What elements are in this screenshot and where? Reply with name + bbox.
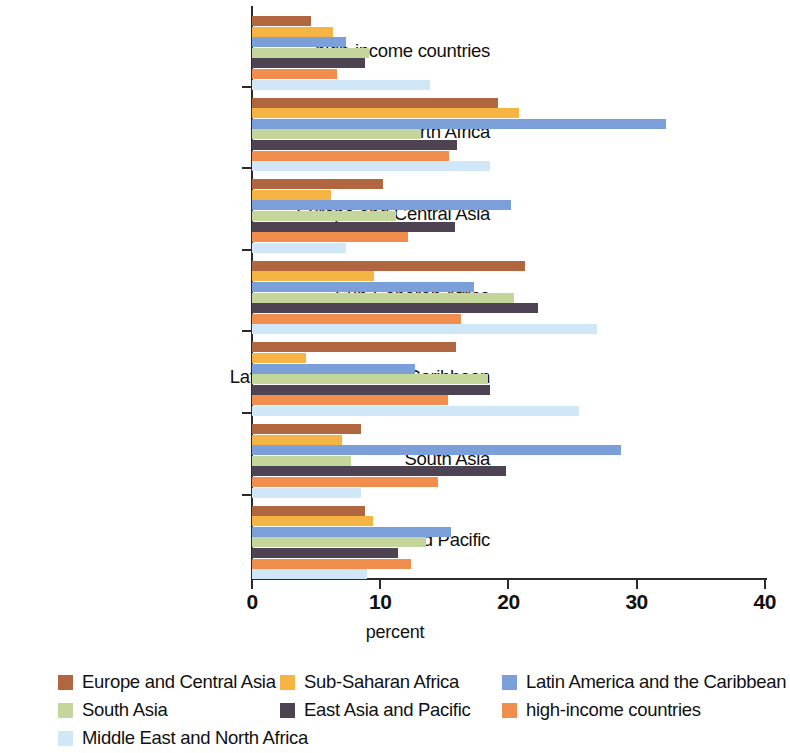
bar	[252, 314, 461, 324]
legend-label: Latin America and the Caribbean	[526, 671, 786, 693]
bar	[252, 424, 361, 434]
bar-group: Latin America and the Caribbean	[252, 338, 765, 420]
bar-group: Middle East and North Africa	[252, 94, 765, 176]
legend-item[interactable]: high-income countries	[502, 699, 778, 721]
bar	[252, 243, 346, 253]
x-axis-tick	[764, 580, 766, 589]
y-axis-tick	[242, 494, 251, 496]
bar	[252, 119, 666, 129]
bar	[252, 48, 369, 58]
bar	[252, 232, 408, 242]
bar	[252, 222, 455, 232]
bar	[252, 385, 490, 395]
x-axis-tick-label: 0	[246, 590, 257, 614]
bar	[252, 435, 342, 445]
bar	[252, 506, 365, 516]
x-axis-tick-label: 10	[369, 590, 391, 614]
bar	[252, 466, 506, 476]
legend-item[interactable]: Europe and Central Asia	[58, 671, 280, 693]
bar	[252, 303, 538, 313]
bar	[252, 151, 449, 161]
chart-legend: Europe and Central AsiaSub-Saharan Afric…	[58, 668, 778, 752]
bar	[252, 27, 333, 37]
legend-swatch-icon	[502, 675, 517, 690]
bar	[252, 282, 474, 292]
legend-swatch-icon	[280, 703, 295, 718]
bar	[252, 140, 457, 150]
legend-label: high-income countries	[526, 699, 701, 721]
bar	[252, 161, 490, 171]
bar	[252, 271, 374, 281]
y-axis-tick	[242, 330, 251, 332]
x-axis-tick	[507, 580, 509, 589]
bar	[252, 179, 383, 189]
bar-group: East Asia and Pacific	[252, 502, 765, 584]
bar	[252, 406, 579, 416]
y-axis-tick	[242, 86, 251, 88]
bar	[252, 37, 346, 47]
legend-swatch-icon	[280, 675, 295, 690]
legend-swatch-icon	[58, 675, 73, 690]
bar	[252, 293, 514, 303]
bar	[252, 69, 337, 79]
bar	[252, 569, 367, 579]
x-axis-tick	[636, 580, 638, 589]
legend-item[interactable]: East Asia and Pacific	[280, 699, 502, 721]
bar-group: Sub-Saharan Africa	[252, 257, 765, 339]
bar	[252, 324, 597, 334]
bar	[252, 98, 498, 108]
chart-root: high-income countriesMiddle East and Nor…	[0, 0, 790, 753]
bar	[252, 516, 373, 526]
bar	[252, 548, 398, 558]
legend-label: East Asia and Pacific	[304, 699, 470, 721]
bar	[252, 395, 448, 405]
legend-label: Sub-Saharan Africa	[304, 671, 459, 693]
x-axis-title: percent	[0, 622, 790, 643]
bar	[252, 261, 525, 271]
legend-label: Europe and Central Asia	[82, 671, 276, 693]
bar	[252, 559, 411, 569]
bar	[252, 200, 511, 210]
bar	[252, 211, 396, 221]
x-axis-tick	[251, 580, 253, 589]
bar-group: South Asia	[252, 420, 765, 502]
bar	[252, 488, 361, 498]
x-axis-tick	[379, 580, 381, 589]
bar	[252, 190, 331, 200]
bar	[252, 456, 351, 466]
x-axis-tick-label: 30	[625, 590, 647, 614]
bar	[252, 108, 519, 118]
legend-swatch-icon	[58, 731, 73, 746]
bar	[252, 537, 426, 547]
bar	[252, 477, 438, 487]
legend-label: Middle East and North Africa	[82, 727, 308, 749]
y-axis-tick	[242, 249, 251, 251]
legend-swatch-icon	[58, 703, 73, 718]
bar	[252, 16, 311, 26]
bar	[252, 364, 415, 374]
bar	[252, 342, 456, 352]
x-axis-tick-label: 20	[497, 590, 519, 614]
y-axis-tick	[242, 412, 251, 414]
legend-swatch-icon	[502, 703, 517, 718]
bar	[252, 445, 621, 455]
y-axis-tick	[242, 167, 251, 169]
legend-item[interactable]: South Asia	[58, 699, 280, 721]
legend-label: South Asia	[82, 699, 167, 721]
bar	[252, 129, 421, 139]
legend-item[interactable]: Sub-Saharan Africa	[280, 671, 502, 693]
bar	[252, 527, 451, 537]
bar	[252, 80, 430, 90]
legend-item[interactable]: Latin America and the Caribbean	[502, 671, 778, 693]
legend-item[interactable]: Middle East and North Africa	[58, 727, 280, 749]
x-axis-tick-label: 40	[754, 590, 776, 614]
plot-area: high-income countriesMiddle East and Nor…	[252, 6, 765, 579]
bar	[252, 374, 488, 384]
bar-group: Europe and Central Asia	[252, 175, 765, 257]
bar	[252, 353, 306, 363]
bar	[252, 58, 365, 68]
bar-group: high-income countries	[252, 12, 765, 94]
